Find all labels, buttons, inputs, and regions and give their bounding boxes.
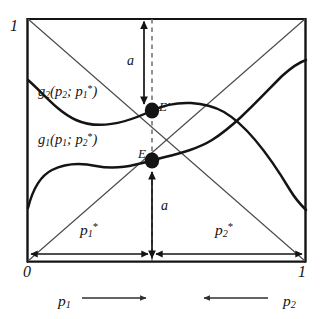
equilibrium-point-e-prime-label: E′ xyxy=(159,100,170,113)
segment-p1-star-label: p1* xyxy=(80,222,98,238)
g2-curve-label: g2(p2; p1*) xyxy=(38,84,97,99)
y-axis-tick-max: 1 xyxy=(10,18,18,34)
equilibrium-point-e-label: E xyxy=(138,147,146,160)
p1-dir-sub: 1 xyxy=(66,299,71,310)
equilibrium-point-e-prime xyxy=(145,103,159,119)
direction-p1-label: p1 xyxy=(58,293,71,309)
equilibrium-point-e xyxy=(145,153,159,169)
p2-dir-sub: 2 xyxy=(291,299,296,310)
g1-curve-label: g1(p1; p2*) xyxy=(38,132,97,147)
x-axis-tick-max: 1 xyxy=(298,264,306,280)
e-prime-prime-mark: ′ xyxy=(167,99,170,114)
p2-star-asterisk: * xyxy=(228,220,233,232)
segment-p2-star-label: p2* xyxy=(215,222,233,238)
direction-p2-label: p2 xyxy=(283,293,296,309)
p1-dir-letter: p xyxy=(58,292,66,309)
figure-root: 1 0 1 g2(p2; p1*) g1(p1; p2*) E′ E a a p… xyxy=(0,0,332,319)
gap-lower-label: a xyxy=(161,199,168,213)
e-letter: E xyxy=(138,146,146,161)
e-prime-letter: E xyxy=(159,99,167,114)
p2-dir-letter: p xyxy=(283,292,291,309)
diagram-canvas xyxy=(0,0,332,319)
g1-label-arg2: p xyxy=(75,131,82,147)
g2-label-arg2: p xyxy=(75,83,82,99)
p1-star-asterisk: * xyxy=(93,220,98,232)
g1-label-close: ) xyxy=(92,131,97,147)
g2-label-close: ) xyxy=(92,83,97,99)
axis-origin-tick: 0 xyxy=(23,264,31,280)
p1-star-letter: p xyxy=(80,221,88,238)
p2-star-letter: p xyxy=(215,221,223,238)
gap-upper-label: a xyxy=(127,54,134,68)
